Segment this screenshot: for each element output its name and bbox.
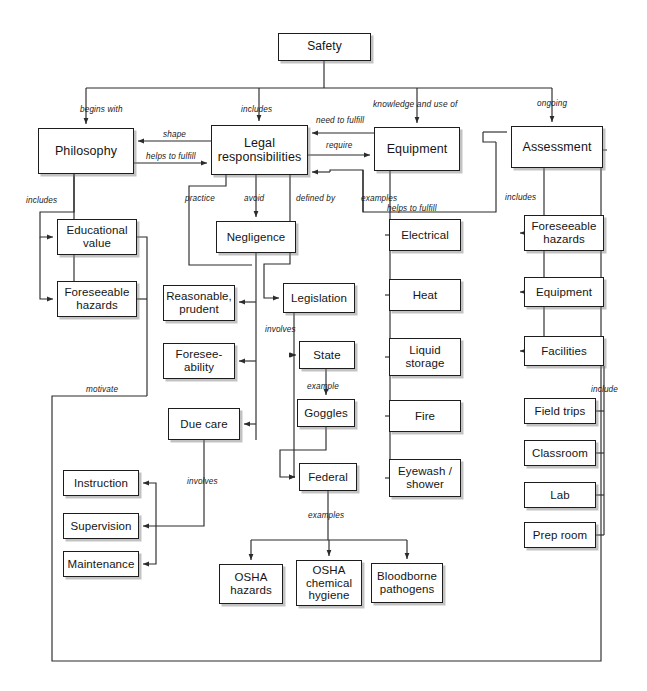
node-federal[interactable]: Federal — [299, 463, 357, 491]
edge-label-motivate: motivate — [86, 385, 118, 394]
node-foreseeable-hazards-right[interactable]: Foreseeable hazards — [524, 215, 604, 251]
node-prep-room[interactable]: Prep room — [524, 522, 596, 548]
edge-label-include-facilities: include — [591, 385, 618, 394]
edge-label-example-state: example — [307, 382, 339, 391]
edge-label-examples-federal: examples — [308, 511, 344, 520]
edge-label-need-to-fulfill: need to fulfill — [316, 116, 364, 125]
node-label: Negligence — [227, 231, 286, 244]
node-goggles[interactable]: Goggles — [297, 399, 355, 427]
node-label: Federal — [308, 471, 348, 484]
node-label: Prep room — [533, 529, 588, 542]
node-osha-chemical-hygiene[interactable]: OSHA chemical hygiene — [296, 560, 362, 606]
edge-label-knowledge-and-use-of: knowledge and use of — [373, 99, 457, 109]
edge-label-practice: practice — [185, 194, 215, 203]
node-label: Foresee- ability — [167, 348, 231, 374]
edge-label-involves-legislation: involves — [265, 325, 296, 334]
node-field-trips[interactable]: Field trips — [524, 398, 596, 424]
edge-label-shape: shape — [163, 130, 186, 139]
node-label: Lab — [550, 489, 570, 502]
edge-label-require: require — [326, 141, 353, 150]
node-label: Supervision — [70, 520, 131, 533]
node-label: Philosophy — [55, 144, 117, 158]
node-heat[interactable]: Heat — [389, 279, 461, 311]
edge-label-includes-philosophy: includes — [26, 196, 57, 205]
edge-label-includes-top: includes — [241, 105, 272, 114]
concept-map-canvas: Safety Philosophy Legal responsibilities… — [0, 0, 647, 691]
node-reasonable-prudent[interactable]: Reasonable, prudent — [163, 285, 235, 321]
node-equipment-top[interactable]: Equipment — [374, 127, 460, 171]
node-philosophy[interactable]: Philosophy — [38, 128, 134, 174]
edge-label-ongoing: ongoing — [537, 99, 567, 108]
node-classroom[interactable]: Classroom — [524, 440, 596, 466]
node-label: Fire — [415, 410, 435, 423]
edge-label-avoid: avoid — [244, 194, 264, 203]
node-label: OSHA chemical hygiene — [300, 564, 358, 603]
node-assessment[interactable]: Assessment — [511, 126, 603, 168]
node-label: Liquid storage — [393, 344, 457, 370]
node-liquid-storage[interactable]: Liquid storage — [389, 338, 461, 376]
node-lab[interactable]: Lab — [524, 482, 596, 508]
node-instruction[interactable]: Instruction — [63, 470, 139, 496]
node-label: Instruction — [74, 477, 128, 490]
edge-label-helps-to-fulfill-2: helps to fulfill — [387, 204, 437, 213]
node-foreseeable-hazards-left[interactable]: Foreseeable hazards — [57, 281, 137, 317]
node-label: Due care — [180, 418, 227, 431]
edge-label-involves-due-care: involves — [187, 477, 218, 486]
node-due-care[interactable]: Due care — [168, 408, 240, 440]
node-label: Electrical — [401, 229, 449, 242]
node-label: Reasonable, prudent — [166, 290, 232, 316]
node-label: Classroom — [532, 447, 588, 460]
node-label: Eyewash / shower — [393, 465, 457, 491]
node-supervision[interactable]: Supervision — [63, 513, 139, 539]
node-label: Equipment — [536, 286, 592, 299]
node-eyewash-shower[interactable]: Eyewash / shower — [389, 459, 461, 497]
node-label: Legislation — [291, 292, 347, 305]
node-label: Safety — [307, 40, 342, 53]
node-label: Foreseeable hazards — [528, 220, 600, 246]
node-maintenance[interactable]: Maintenance — [63, 551, 139, 577]
edge-label-examples-equipment: examples — [361, 194, 397, 203]
node-state[interactable]: State — [299, 341, 355, 369]
node-safety[interactable]: Safety — [278, 33, 371, 61]
node-educational-value[interactable]: Educational value — [57, 219, 137, 255]
node-legislation[interactable]: Legislation — [283, 283, 355, 313]
node-label: OSHA hazards — [223, 571, 279, 597]
node-negligence[interactable]: Negligence — [216, 221, 296, 253]
edge-label-defined-by: defined by — [296, 194, 335, 203]
node-label: Facilities — [541, 345, 587, 358]
node-equipment-right[interactable]: Equipment — [524, 277, 604, 307]
node-label: Bloodborne pathogens — [375, 570, 439, 596]
node-label: Heat — [413, 289, 438, 302]
node-label: Foreseeable hazards — [61, 286, 133, 312]
node-label: Educational value — [61, 224, 133, 250]
node-legal-responsibilities[interactable]: Legal responsibilities — [211, 125, 308, 175]
node-facilities[interactable]: Facilities — [524, 336, 604, 366]
edge-label-helps-to-fulfill-1: helps to fulfill — [146, 152, 196, 161]
edge-label-includes-assessment: includes — [505, 193, 536, 202]
node-label: State — [313, 349, 340, 362]
node-label: Field trips — [535, 405, 586, 418]
node-osha-hazards[interactable]: OSHA hazards — [219, 564, 283, 604]
node-electrical[interactable]: Electrical — [389, 219, 461, 251]
node-label: Maintenance — [68, 558, 135, 571]
node-label: Goggles — [304, 407, 348, 420]
node-label: Equipment — [387, 142, 448, 156]
node-label: Assessment — [522, 140, 591, 154]
node-label: Legal responsibilities — [215, 136, 304, 164]
edge-label-begins-with: begins with — [80, 105, 123, 114]
node-bloodborne-pathogens[interactable]: Bloodborne pathogens — [371, 563, 443, 603]
node-foreseeability[interactable]: Foresee- ability — [163, 343, 235, 379]
node-fire[interactable]: Fire — [389, 400, 461, 432]
